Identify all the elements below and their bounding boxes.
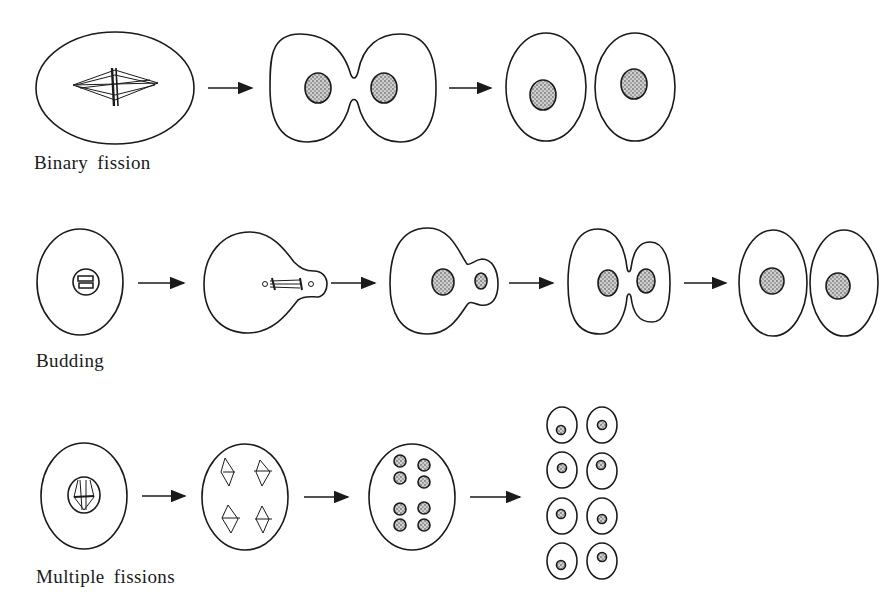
row-label-binary-fission: Binary fission — [34, 152, 151, 174]
spindle-icon — [263, 278, 314, 290]
mitotic-spindle-icon — [73, 68, 158, 106]
multiple-stage-4-cells — [547, 407, 617, 579]
multiple-stage-1-cell — [41, 443, 127, 549]
multiple-stage-2-cell — [202, 444, 288, 550]
binary-stage-2-cell — [270, 34, 436, 142]
budding-stage-5-cells — [739, 230, 878, 336]
budding-stage-3-cell — [390, 228, 498, 334]
mitotic-spindle-icon — [74, 480, 94, 510]
budding-stage-2-cell — [204, 232, 327, 333]
budding-stage-1-cell — [37, 229, 123, 335]
budding-row — [37, 228, 878, 336]
multiple-fissions-row — [41, 407, 617, 579]
spindle-icon — [221, 458, 272, 533]
binary-fission-row — [36, 32, 675, 144]
binary-stage-1-cell — [36, 32, 194, 144]
chromosome-icon — [78, 276, 93, 288]
binary-stage-3-cells — [506, 33, 675, 141]
row-label-budding: Budding — [36, 350, 104, 372]
cell-division-diagram — [0, 0, 894, 615]
multiple-stage-3-cell — [369, 444, 455, 550]
row-label-multiple-fissions: Multiple fissions — [36, 566, 175, 588]
budding-stage-4-cell — [568, 229, 670, 334]
